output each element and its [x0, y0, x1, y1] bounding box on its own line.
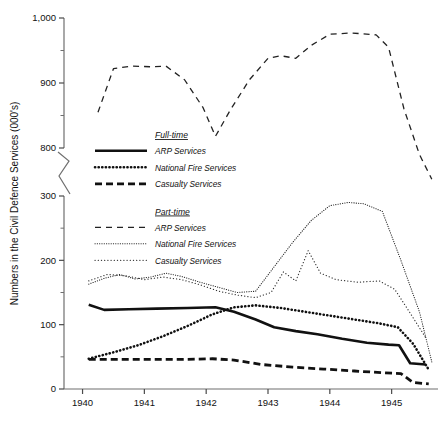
y-tick-label: 300 [40, 190, 56, 201]
x-tick-label: 1940 [72, 397, 93, 408]
line-chart: 01002003008009001,0001940194119421943194… [0, 0, 445, 421]
legend-entry-label: National Fire Services [155, 163, 236, 173]
series-line-part-time-arp-services [98, 33, 432, 179]
series-line-part-time-national-fire-services [89, 202, 432, 362]
series-line-full-time-arp-services [89, 305, 426, 365]
x-tick-label: 1945 [381, 397, 402, 408]
y-axis-title: Numbers in the Civil Defence Services (0… [9, 102, 20, 306]
x-tick-label: 1943 [257, 397, 278, 408]
y-tick-label: 1,000 [32, 12, 56, 23]
x-tick-label: 1944 [319, 397, 340, 408]
series-line-part-time-casualty-services [89, 251, 426, 338]
legend-entry-label: ARP Services [154, 146, 206, 156]
legend-entry-label: Casualty Services [155, 256, 221, 266]
x-tick-label: 1942 [196, 397, 217, 408]
y-axis-break-icon [58, 152, 70, 194]
legend-entry-label: National Fire Services [155, 239, 236, 249]
y-tick-label: 0 [51, 383, 56, 394]
legend-entry-label: ARP Services [154, 223, 206, 233]
series-line-full-time-casualty-services [89, 359, 429, 384]
x-tick-label: 1941 [134, 397, 155, 408]
legend-group-heading-part-time: Part-time [155, 207, 190, 217]
legend-group-heading-full-time: Full-time [155, 130, 188, 140]
y-tick-label: 200 [40, 255, 56, 266]
y-tick-label: 100 [40, 319, 56, 330]
chart-figure: 01002003008009001,0001940194119421943194… [0, 0, 445, 421]
y-tick-label: 800 [40, 142, 56, 153]
y-tick-label: 900 [40, 77, 56, 88]
legend-entry-label: Casualty Services [155, 179, 221, 189]
